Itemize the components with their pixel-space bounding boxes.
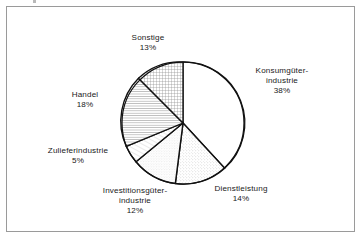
- pie-label-percent: 38%: [238, 86, 326, 96]
- pie-label-name-line2: industrie: [86, 196, 184, 206]
- pie-label-sonstige: Sonstige 13%: [110, 33, 186, 53]
- pie-label-handel: Handel 18%: [48, 90, 122, 110]
- pie-label-name-line1: Zulieferindustrie: [26, 146, 130, 156]
- pie-label-name-line1: Handel: [48, 90, 122, 100]
- pie-label-name-line1: Sonstige: [110, 33, 186, 43]
- pie-label-percent: 14%: [197, 194, 285, 204]
- pie-label-percent: 18%: [48, 100, 122, 110]
- pie-label-percent: 5%: [26, 156, 130, 166]
- pie-chart-figure: Konsumgüter- industrie 38% Dienstleistun…: [0, 0, 363, 239]
- pie-label-konsumgueterindustrie: Konsumgüter- industrie 38%: [238, 66, 326, 97]
- pie-label-investitionsgueterindustrie: Investitionsgüter- industrie 12%: [86, 186, 184, 217]
- pie-label-name-line2: industrie: [238, 76, 326, 86]
- pie-label-percent: 12%: [86, 206, 184, 216]
- pie-label-dienstleistung: Dienstleistung 14%: [197, 184, 285, 204]
- pie-label-name-line1: Konsumgüter-: [238, 66, 326, 76]
- pie-label-name-line1: Dienstleistung: [197, 184, 285, 194]
- pie-label-zulieferindustrie: Zulieferindustrie 5%: [26, 146, 130, 166]
- pie-label-name-line1: Investitionsgüter-: [86, 186, 184, 196]
- pie-label-percent: 13%: [110, 43, 186, 53]
